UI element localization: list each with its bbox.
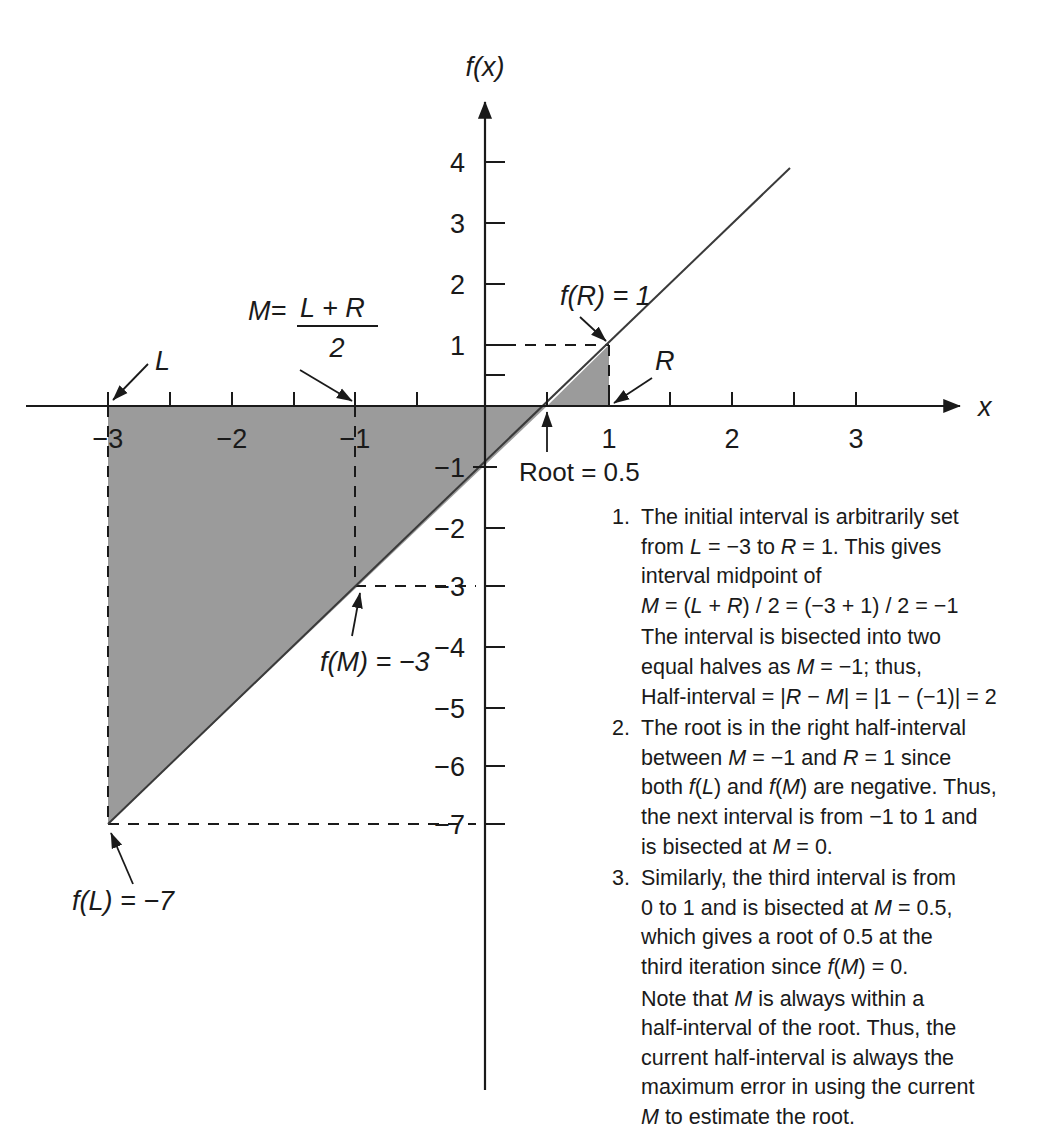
note-body-3: Similarly, the third interval is from0 t… [641, 864, 1044, 982]
x-tick-label-3: 3 [848, 424, 863, 454]
x-tick-label--1: −1 [340, 424, 371, 454]
annotation-fM-label: f(M) = −3 [320, 647, 430, 677]
x-axis-label: x [976, 392, 993, 422]
leader-fR [580, 317, 606, 341]
annotation-R-label: R [655, 346, 675, 376]
shaded-right-triangle [547, 345, 609, 406]
annotation-M-lhs: M= [248, 296, 286, 326]
note-item-2: 2. The root is in the right half-interva… [608, 714, 1044, 862]
y-tick-label-2: 2 [450, 270, 465, 300]
y-tick-label-3: 3 [450, 209, 465, 239]
note-extra-3: Note that M is always within ahalf-inter… [641, 985, 1044, 1133]
annotation-root: Root = 0.5 [519, 412, 640, 487]
y-tick-label--6: −6 [434, 752, 465, 782]
annotation-M-denominator: 2 [328, 333, 344, 363]
annotation-M-numerator: L + R [300, 293, 365, 323]
x-tick-label--2: −2 [217, 424, 248, 454]
annotation-fR: f(R) = 1 [560, 281, 651, 341]
x-tick-label-1: 1 [601, 424, 616, 454]
y-axis-ticks [473, 162, 505, 824]
note-number-2: 2. [608, 714, 641, 744]
note-number-1: 1. [608, 503, 641, 533]
note-item-1: 1. The initial interval is arbitrarily s… [608, 503, 1044, 621]
x-tick-label-2: 2 [724, 424, 739, 454]
note-item-3: 3. Similarly, the third interval is from… [608, 864, 1044, 982]
x-axis-ticks [108, 392, 856, 406]
leader-M [300, 370, 352, 401]
annotation-fL: f(L) = −7 [72, 833, 175, 916]
annotation-fL-label: f(L) = −7 [72, 886, 175, 916]
y-tick-label--7: −7 [434, 810, 465, 840]
y-tick-label--2: −2 [434, 514, 465, 544]
note-extra-1: The interval is bisected into twoequal h… [641, 623, 1044, 712]
note-number-3: 3. [608, 864, 641, 894]
y-tick-label-1: 1 [450, 331, 465, 361]
annotation-R: R [614, 346, 675, 403]
y-tick-label--1: −1 [434, 453, 465, 483]
leader-fM [352, 593, 360, 636]
annotation-M: M= L + R 2 [248, 293, 378, 401]
annotation-L: L [113, 346, 170, 400]
leader-fL [111, 833, 133, 884]
explanatory-notes: 1. The initial interval is arbitrarily s… [608, 503, 1044, 1134]
leader-L [113, 364, 148, 400]
y-tick-label-4: 4 [450, 148, 465, 178]
annotation-fR-label: f(R) = 1 [560, 281, 651, 311]
note-body-1: The initial interval is arbitrarily setf… [641, 503, 1044, 621]
annotation-root-label: Root = 0.5 [519, 457, 640, 487]
y-tick-label--4: −4 [434, 633, 465, 663]
y-tick-label--5: −5 [434, 694, 465, 724]
figure-page: −3 −2 −1 1 2 3 4 3 2 1 −1 −2 −3 −4 −5 −6… [0, 0, 1052, 1148]
leader-R [614, 378, 652, 403]
note-body-2: The root is in the right half-intervalbe… [641, 714, 1044, 862]
y-axis-label: f(x) [466, 52, 505, 82]
y-tick-label--3: −3 [434, 572, 465, 602]
x-tick-label--3: −3 [93, 424, 124, 454]
annotation-L-label: L [155, 346, 170, 376]
